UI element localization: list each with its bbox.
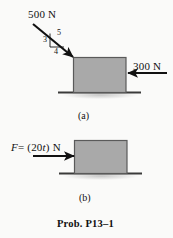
label-slope-vertical-3: 3 bbox=[43, 36, 47, 44]
force-symbol-F: F bbox=[11, 141, 18, 153]
block-a bbox=[74, 58, 127, 93]
label-slope-hypotenuse-5: 5 bbox=[57, 29, 61, 37]
force-expression-equals: = (20 bbox=[18, 141, 43, 153]
part-label-b: (b) bbox=[79, 193, 91, 203]
label-300n: 300 N bbox=[133, 61, 161, 72]
label-500n: 500 N bbox=[28, 9, 56, 20]
force-arrow-500n bbox=[33, 24, 73, 57]
label-slope-horizontal-4: 4 bbox=[54, 48, 58, 56]
problem-figure: 500 N 3 5 4 300 N (a) F= (20t) N (b) Pro… bbox=[0, 0, 173, 238]
figure-caption: Prob. P13–1 bbox=[57, 219, 114, 230]
part-label-a: (a) bbox=[78, 111, 89, 121]
force-expression-suffix: ) N bbox=[46, 141, 61, 153]
block-b bbox=[75, 141, 128, 174]
label-force-expression: F= (20t) N bbox=[11, 142, 61, 153]
